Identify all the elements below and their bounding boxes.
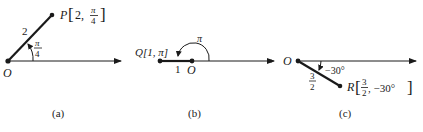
caption-a: (a) [52, 107, 65, 120]
angle-arc-b [178, 43, 209, 61]
point-label-r-theta: , −30° [368, 82, 395, 94]
point-r [338, 84, 343, 89]
angle-label-b: π [197, 33, 203, 44]
origin-point-c [296, 59, 301, 64]
radius-label-c-den: 2 [310, 82, 315, 92]
radius-segment-a [8, 15, 52, 61]
panel-b: π Q[1, π] 1 O (b) [135, 33, 273, 120]
point-label-p-name: P [59, 8, 68, 22]
radius-label-a: 2 [22, 25, 28, 37]
bracket-close-a: ] [100, 5, 106, 24]
radius-label-c-num: 3 [310, 71, 315, 81]
caption-b: (b) [188, 107, 201, 120]
point-label-r-r-den: 2 [362, 88, 367, 98]
origin-point-a [5, 58, 10, 63]
angle-label-a-num: π [35, 38, 40, 48]
origin-label-c: O [283, 54, 292, 68]
origin-label-b: O [187, 63, 196, 77]
angle-label-a-den: 4 [35, 49, 40, 59]
point-q [158, 59, 163, 64]
point-label-p-r: 2, [75, 8, 84, 22]
panel-a: O 2 π 4 P [ 2, π 4 ] (a) [3, 5, 121, 120]
radius-label-b: 1 [175, 63, 181, 75]
point-label-p-theta-num: π [91, 5, 96, 15]
angle-arc-c [319, 61, 321, 70]
angle-label-c: −30° [325, 65, 345, 76]
panel-c: O −30° 3 2 R [ 3 2 , −30° ] (c) [270, 54, 416, 120]
point-label-r-r-num: 3 [362, 77, 367, 87]
bracket-open-c: [ [355, 78, 361, 97]
origin-label-a: O [3, 66, 12, 80]
caption-c: (c) [339, 107, 352, 120]
point-label-r-name: R [346, 80, 355, 94]
polar-coordinates-figure: O 2 π 4 P [ 2, π 4 ] (a) π Q[1, π] 1 O (… [0, 0, 423, 132]
bracket-close-c: ] [407, 78, 413, 97]
point-p [50, 13, 55, 18]
bracket-open-a: [ [68, 5, 74, 24]
point-label-p-theta-den: 4 [91, 16, 96, 26]
angle-arc-a [28, 44, 33, 61]
point-label-q: Q[1, π] [135, 46, 168, 58]
